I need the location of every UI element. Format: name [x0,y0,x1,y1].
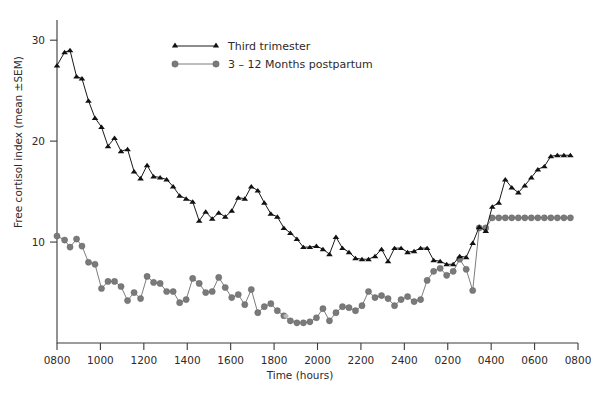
cortisol-chart-figure: 102030 080010001200140016001800200022002… [0,0,600,394]
x-tick-label: 1600 [217,354,244,366]
circle-marker [177,300,183,306]
circle-marker [157,280,163,286]
circle-marker [54,233,60,239]
circle-marker [346,305,352,311]
legend-label-postpartum: 3 – 12 Months postpartum [228,58,373,71]
circle-marker [62,237,68,243]
circle-marker [213,61,219,67]
x-tick-label: 1400 [174,354,201,366]
circle-marker [437,265,443,271]
circle-marker [216,274,222,280]
circle-marker [183,297,189,303]
x-tick-label: 2000 [304,354,331,366]
x-tick-label: 1200 [130,354,157,366]
x-tick-label: 0800 [565,354,592,366]
circle-marker [85,259,91,265]
circle-marker [137,295,143,301]
circle-marker [541,215,547,221]
circle-marker [170,288,176,294]
circle-marker [203,289,209,295]
circle-marker [144,273,150,279]
circle-marker [561,215,567,221]
x-tick-label: 0400 [478,354,505,366]
x-tick-label: 1000 [87,354,114,366]
x-tick-label: 0200 [434,354,461,366]
x-axis-title: Time (hours) [266,369,334,381]
circle-marker [164,288,170,294]
circle-marker [196,280,202,286]
y-axis-title: Free cortisol index (mean ±SEM) [12,56,24,228]
circle-marker [391,303,397,309]
circle-marker [248,286,254,292]
circle-marker [496,215,502,221]
circle-marker [502,215,508,221]
circle-marker [411,299,417,305]
circle-marker [131,289,137,295]
circle-marker [151,279,157,285]
circle-marker [124,298,130,304]
circle-marker [398,297,404,303]
circle-marker [528,215,534,221]
circle-marker [229,294,235,300]
circle-marker [307,319,313,325]
circle-marker [522,215,528,221]
circle-marker [118,283,124,289]
circle-marker [105,278,111,284]
x-tick-label: 2400 [391,354,418,366]
circle-marker [235,291,241,297]
circle-marker [111,278,117,284]
circle-marker [261,304,267,310]
circle-marker [313,315,319,321]
legend-label-third-trimester: Third trimester [227,40,311,53]
circle-marker [222,284,228,290]
circle-marker [463,266,469,272]
circle-marker [287,318,293,324]
circle-marker [515,215,521,221]
circle-marker [352,308,358,314]
circle-marker [378,292,384,298]
circle-marker [365,288,371,294]
circle-marker [300,320,306,326]
y-tick-label: 30 [32,34,45,46]
circle-marker [535,215,541,221]
circle-marker [92,261,98,267]
x-tick-label: 0600 [521,354,548,366]
circle-marker [73,236,79,242]
circle-marker [274,308,280,314]
x-tick-label: 1800 [261,354,288,366]
circle-marker [333,310,339,316]
x-tick-label: 2200 [348,354,375,366]
circle-marker [548,215,554,221]
circle-marker [450,268,456,274]
circle-marker [326,318,332,324]
circle-marker [431,268,437,274]
circle-marker [320,306,326,312]
circle-marker [444,272,450,278]
circle-marker [255,310,261,316]
circle-marker [339,304,345,310]
y-tick-label: 20 [32,135,45,147]
chart-canvas: 102030 080010001200140016001800200022002… [0,0,600,394]
circle-marker [98,285,104,291]
circle-marker [209,288,215,294]
y-tick-label: 10 [32,236,45,248]
circle-marker [190,275,196,281]
circle-marker [567,215,573,221]
circle-marker [385,295,391,301]
circle-marker [268,301,274,307]
x-tick-label: 0800 [44,354,71,366]
circle-marker [404,293,410,299]
circle-marker [79,243,85,249]
circle-marker [470,287,476,293]
circle-marker [418,297,424,303]
circle-marker [242,302,248,308]
circle-marker [294,320,300,326]
circle-marker [509,215,515,221]
scan-artifact [283,314,288,318]
circle-marker [554,215,560,221]
circle-marker [67,244,73,250]
circle-marker [372,294,378,300]
circle-marker [424,277,430,283]
circle-marker [172,61,178,67]
circle-marker [359,303,365,309]
